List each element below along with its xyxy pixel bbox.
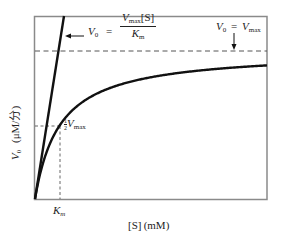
michaelis-menten-diagram: V0 = Vmax[S] Km V0 = Vmax 12Vmax Km [S] … [0,0,282,233]
eq-den-var: K [132,27,139,39]
y-label-sub: 0 [15,150,23,154]
vmax-eq-rhs-sub: max [249,26,261,34]
eq-num-sub: max [129,17,141,25]
slope-arrow-head-icon [65,34,71,39]
eq-numerator: Vmax[S] [120,12,156,27]
km-sub: m [60,210,65,218]
half-vmax-var: V [67,117,74,129]
x-axis-label: [S] (mM) [128,220,169,231]
plot-frame [35,17,268,200]
half-vmax-label: 12Vmax [64,118,86,131]
eq-lhs-sub: 0 [95,31,99,39]
vmax-equation: V0 = Vmax [216,21,261,34]
eq-den-sub: m [139,33,144,41]
y-label-units: (μM/分) [9,106,21,143]
y-axis-label: V0 (μM/分) [6,106,23,160]
vmax-eq-equals: = [231,20,237,32]
eq-num-rest: [S] [141,11,154,23]
half-vmax-sub: max [74,123,86,131]
vmax-eq-lhs-var: V [216,20,223,32]
km-label: Km [53,205,65,218]
eq-num-var: V [122,11,129,23]
y-label-var: V [9,153,21,160]
vmax-arrow-head-icon [232,44,237,50]
vmax-eq-lhs-sub: 0 [223,26,227,34]
eq-lhs-var: V [88,25,95,37]
michaelis-menten-curve [35,65,267,199]
eq-fraction: Vmax[S] Km [120,12,156,41]
eq-equals: = [106,25,112,37]
eq-denominator: Km [120,27,156,41]
initial-slope-equation: V0 = Vmax[S] Km [88,23,156,41]
vmax-eq-rhs-var: V [242,20,249,32]
